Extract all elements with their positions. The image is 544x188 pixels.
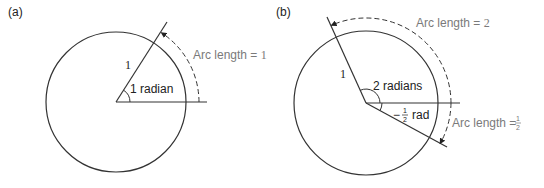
panel-a: (a) 1 1 radian Arc length = 1 [8, 5, 267, 172]
svg-text:2: 2 [403, 116, 407, 123]
arc-length-label-b-2: Arc length = 2 [416, 16, 490, 30]
angle-label-a: 1 radian [130, 82, 173, 96]
svg-text:1: 1 [516, 115, 520, 122]
angle-label-b: 2 radians [373, 79, 422, 93]
panel-b-label: (b) [276, 5, 291, 19]
svg-text:rad: rad [412, 108, 429, 122]
panel-b: (b) 1 2 radians − 1 2 rad Arc length = 2 [276, 5, 521, 175]
dashed-arc-b-neg-half [440, 103, 451, 144]
svg-text:−: − [393, 108, 400, 122]
svg-text:2: 2 [516, 124, 520, 131]
radius-label-a: 1 [125, 58, 131, 72]
radian-diagram: (a) 1 1 radian Arc length = 1 (b) [0, 0, 544, 188]
arc-length-label-a: Arc length = 1 [193, 48, 267, 62]
svg-text:1: 1 [403, 107, 407, 114]
panel-a-label: (a) [8, 5, 23, 19]
neg-angle-label-b: − 1 2 rad [393, 107, 429, 123]
svg-text:Arc length =: Arc length = [452, 116, 516, 130]
arc-length-label-b-half: Arc length = 1 2 [452, 115, 521, 131]
radius-label-b: 1 [340, 67, 346, 81]
angle-arc-b-neg-half [380, 103, 382, 111]
